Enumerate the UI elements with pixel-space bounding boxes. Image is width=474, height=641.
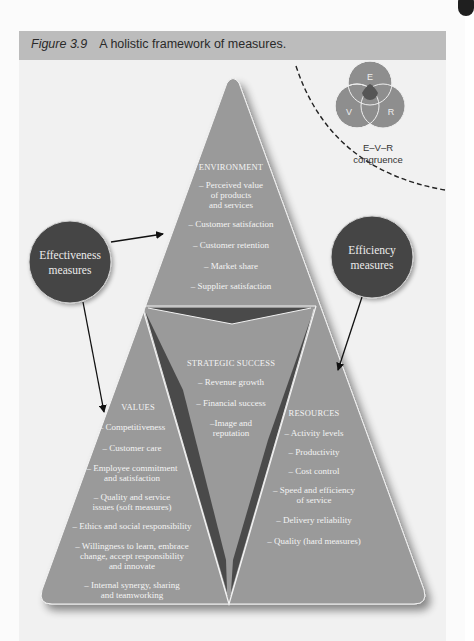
values-item: issues (soft measures): [93, 502, 172, 513]
resources-item: of service: [296, 495, 331, 506]
venn-letter-r: R: [388, 107, 395, 117]
environment-item: – Market share: [204, 261, 258, 272]
values-heading: VALUES: [121, 402, 155, 413]
evr-label-line2: congruence: [353, 154, 403, 166]
strategic-success-heading: STRATEGIC SUCCESS: [187, 358, 275, 369]
environment-heading: ENVIRONMENT: [199, 162, 264, 173]
values-item: and innovate: [109, 561, 155, 572]
values-item: and satisfaction: [104, 473, 160, 484]
environment-item: – Customer satisfaction: [189, 219, 274, 230]
evr-congruence-label: E–V–R congruence: [353, 142, 403, 166]
environment-item: – Supplier satisfaction: [191, 281, 272, 292]
effectiveness-line1: Effectiveness: [39, 248, 101, 263]
evr-label-line1: E–V–R: [353, 142, 403, 154]
efficiency-line1: Efficiency: [348, 243, 396, 258]
venn-letter-e: E: [367, 72, 373, 82]
effectiveness-line2: measures: [39, 263, 101, 278]
strategic-success-item: reputation: [213, 428, 250, 439]
arrow-efficiency-to-resources: [338, 297, 362, 370]
values-item: – Competitiveness: [99, 422, 166, 433]
values-item: and teamworking: [101, 590, 164, 601]
strategic-success-item: – Financial success: [196, 398, 265, 409]
resources-item: – Productivity: [288, 447, 339, 458]
values-item: – Ethics and social responsibility: [73, 521, 192, 532]
efficiency-measures-label: Efficiency measures: [348, 243, 396, 273]
resources-item: – Delivery reliability: [276, 515, 351, 526]
strategic-success-item: – Revenue growth: [198, 377, 264, 388]
environment-item: and services: [209, 200, 253, 211]
effectiveness-measures-label: Effectiveness measures: [39, 248, 101, 278]
resources-item: – Quality (hard measures): [267, 536, 361, 547]
resources-item: – Cost control: [289, 466, 340, 477]
venn-letter-v: V: [346, 107, 352, 117]
resources-item: – Activity levels: [285, 428, 344, 439]
arrow-effectiveness-to-values: [83, 302, 104, 412]
arrow-effectiveness-to-environment: [111, 234, 163, 242]
values-item: – Customer care: [103, 443, 162, 454]
efficiency-line2: measures: [348, 258, 396, 273]
environment-item: – Customer retention: [193, 240, 269, 251]
resources-heading: RESOURCES: [289, 408, 340, 419]
